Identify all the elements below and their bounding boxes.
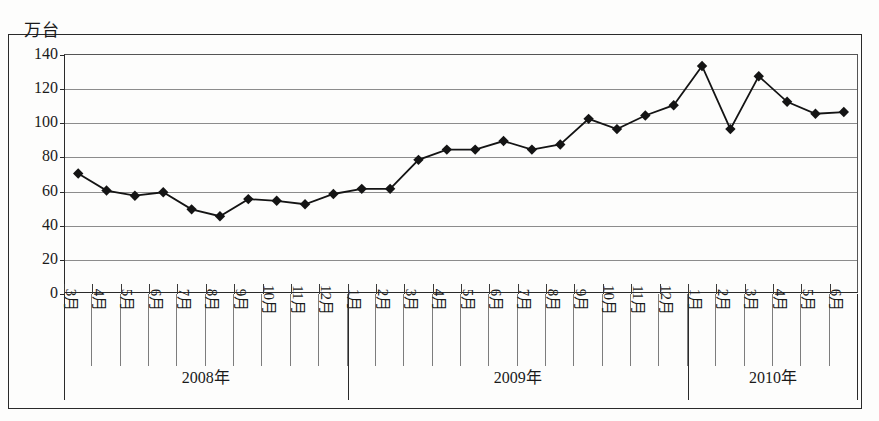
x-axis-tick-mark bbox=[830, 284, 831, 294]
y-axis-tick-label: 80 bbox=[42, 148, 58, 164]
x-axis-tick-mark bbox=[801, 284, 802, 294]
year-separator bbox=[348, 294, 349, 400]
data-point-marker bbox=[300, 199, 310, 209]
x-axis-tick-mark bbox=[64, 284, 65, 294]
x-axis-year-label: 2009年 bbox=[494, 370, 542, 386]
data-point-marker bbox=[130, 190, 140, 200]
x-axis-tick-mark bbox=[206, 284, 207, 294]
x-axis-tick-mark bbox=[404, 284, 405, 294]
x-axis-year-band: 2008年2009年2010年 bbox=[64, 294, 858, 400]
series-line bbox=[78, 66, 844, 216]
chart-screenshot: 万台 020406080100120140 3月4月5月6月7月8月9月10月1… bbox=[0, 0, 879, 421]
line-series bbox=[64, 54, 858, 293]
x-axis-tick-mark bbox=[433, 284, 434, 294]
data-point-marker bbox=[215, 211, 225, 221]
x-axis-year-label: 2008年 bbox=[182, 370, 230, 386]
x-axis-tick-mark bbox=[234, 284, 235, 294]
x-axis-tick-mark bbox=[716, 284, 717, 294]
x-axis-tick-mark bbox=[574, 284, 575, 294]
data-point-marker bbox=[73, 168, 83, 178]
y-axis-tick-label: 0 bbox=[50, 285, 58, 301]
y-axis-tick-label: 120 bbox=[34, 80, 58, 96]
data-point-marker bbox=[498, 136, 508, 146]
data-point-marker bbox=[158, 187, 168, 197]
x-axis-tick-mark bbox=[263, 284, 264, 294]
x-axis-tick-mark bbox=[660, 284, 661, 294]
data-point-marker bbox=[612, 124, 622, 134]
x-axis-tick-mark bbox=[348, 284, 349, 294]
data-point-marker bbox=[839, 107, 849, 117]
y-axis-tick-label: 140 bbox=[34, 46, 58, 62]
data-point-marker bbox=[101, 185, 111, 195]
x-axis-tick-mark bbox=[92, 284, 93, 294]
y-axis-tick-label: 100 bbox=[34, 114, 58, 130]
year-separator bbox=[688, 294, 689, 400]
x-axis-tick-mark bbox=[121, 284, 122, 294]
x-axis-tick-mark bbox=[518, 284, 519, 294]
x-axis-tick-mark bbox=[688, 284, 689, 294]
year-separator bbox=[857, 294, 858, 400]
y-axis-unit-label: 万台 bbox=[24, 22, 60, 39]
x-axis-tick-mark bbox=[603, 284, 604, 294]
x-axis-year-label: 2010年 bbox=[749, 370, 797, 386]
x-axis-tick-mark bbox=[376, 284, 377, 294]
x-axis-tick-mark bbox=[291, 284, 292, 294]
x-axis-tick-mark bbox=[177, 284, 178, 294]
data-point-marker bbox=[725, 124, 735, 134]
x-axis-tick-mark bbox=[461, 284, 462, 294]
y-axis-tick-label: 40 bbox=[42, 217, 58, 233]
data-point-marker bbox=[328, 189, 338, 199]
data-point-marker bbox=[442, 144, 452, 154]
data-point-marker bbox=[186, 204, 196, 214]
x-axis-tick-mark bbox=[489, 284, 490, 294]
y-axis-tick-labels: 020406080100120140 bbox=[8, 54, 58, 293]
data-point-marker bbox=[810, 109, 820, 119]
x-axis-tick-mark bbox=[319, 284, 320, 294]
y-axis-tick-label: 60 bbox=[42, 183, 58, 199]
x-axis-tick-mark bbox=[149, 284, 150, 294]
x-axis-tick-mark bbox=[773, 284, 774, 294]
data-point-marker bbox=[527, 144, 537, 154]
data-point-marker bbox=[640, 110, 650, 120]
x-axis-tick-mark bbox=[546, 284, 547, 294]
year-separator bbox=[64, 294, 65, 400]
data-point-marker bbox=[271, 196, 281, 206]
x-axis-tick-mark bbox=[745, 284, 746, 294]
data-point-marker bbox=[243, 194, 253, 204]
data-point-marker bbox=[357, 184, 367, 194]
x-axis-tick-mark bbox=[631, 284, 632, 294]
y-axis-tick-label: 20 bbox=[42, 251, 58, 267]
data-point-marker bbox=[470, 144, 480, 154]
